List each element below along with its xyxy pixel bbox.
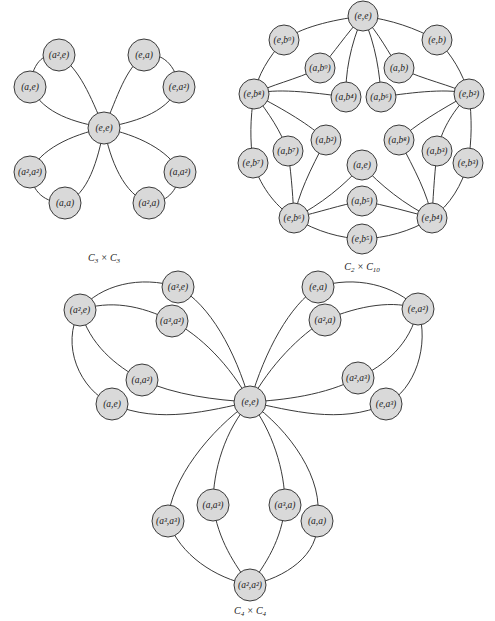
node-c3-a2e: (a²,e) xyxy=(43,39,75,71)
svg-text:(e,b³): (e,b³) xyxy=(458,158,479,169)
svg-text:(e,e): (e,e) xyxy=(354,11,371,22)
caption-c3xc3: C3 × C3 xyxy=(88,252,121,265)
node-c10-ae: (a,e) xyxy=(347,150,377,180)
node-c4-a3a3: (a³,a³) xyxy=(152,505,184,537)
svg-text:(a,a²): (a,a²) xyxy=(131,375,152,386)
svg-text:(a,b⁵): (a,b⁵) xyxy=(351,196,373,207)
svg-text:(e,b²): (e,b²) xyxy=(459,89,480,100)
c4xc4-nodes: (e,e) (a²,e) (a³,e) (a³,a²) (a,a²) (a,e)… xyxy=(64,271,434,601)
node-c10-ab9: (a,b⁹) xyxy=(305,53,335,83)
svg-text:(a,a): (a,a) xyxy=(56,198,74,209)
svg-text:(a,b³): (a,b³) xyxy=(426,146,447,157)
svg-text:(a,b⁹): (a,b⁹) xyxy=(309,63,331,74)
c4xc4-edges xyxy=(72,282,422,585)
node-c10-ab7: (a,b⁷) xyxy=(273,136,303,166)
svg-text:(a,b⁶): (a,b⁶) xyxy=(370,92,392,103)
node-c10-ab2: (a,b²) xyxy=(311,125,341,155)
svg-text:(e,b⁵): (e,b⁵) xyxy=(352,234,373,245)
node-c4-ae: (a,e) xyxy=(96,388,128,420)
svg-text:(a,a³): (a,a³) xyxy=(202,500,223,511)
c3xc3-nodes: (e,e) (a²,e) (a,e) (e,a) (e,a²) (a²,a²) … xyxy=(14,39,196,219)
svg-text:(a,b⁴): (a,b⁴) xyxy=(335,92,357,103)
svg-text:(e,a): (e,a) xyxy=(309,282,327,293)
node-c10-ab3: (a,b³) xyxy=(422,136,452,166)
node-c3-ae: (a,e) xyxy=(14,71,46,103)
svg-text:(a³,e): (a³,e) xyxy=(168,282,189,293)
svg-text:(a,b²): (a,b²) xyxy=(315,135,336,146)
svg-text:(a³,a³): (a³,a³) xyxy=(156,516,180,527)
node-c4-ea3: (e,a³) xyxy=(370,388,402,420)
node-c3-ee: (e,e) xyxy=(88,112,120,144)
node-c10-ab6: (a,b⁶) xyxy=(366,82,396,112)
svg-text:(a,b⁸): (a,b⁸) xyxy=(388,135,410,146)
node-c3-aa2: (a,a²) xyxy=(164,156,196,188)
node-c4-aa3: (a,a³) xyxy=(197,489,229,521)
node-c4-a2e: (a²,e) xyxy=(64,294,96,326)
node-c10-eb4: (e,b⁴) xyxy=(417,203,447,233)
node-c4-aa: (a,a) xyxy=(301,505,333,537)
caption-c4xc4: C4 × C4 xyxy=(234,605,267,618)
svg-text:(a,b): (a,b) xyxy=(390,63,408,74)
node-c10-ee: (e,e) xyxy=(348,1,378,31)
svg-text:(a²,a²): (a²,a²) xyxy=(18,167,42,178)
node-c10-eb7: (e,b⁷) xyxy=(238,148,268,178)
svg-text:(a,e): (a,e) xyxy=(21,82,39,93)
svg-text:(a,a): (a,a) xyxy=(308,516,326,527)
svg-text:(a³,a²): (a³,a²) xyxy=(160,316,184,327)
node-c4-a2a2: (a²,a²) xyxy=(234,569,266,601)
node-c4-a3e: (a³,e) xyxy=(162,271,194,303)
svg-text:(a²,a³): (a²,a³) xyxy=(346,373,370,384)
svg-text:(a,e): (a,e) xyxy=(353,160,371,171)
svg-text:(a,a²): (a,a²) xyxy=(169,167,190,178)
node-c10-eb3: (e,b³) xyxy=(453,148,483,178)
svg-text:(e,b⁸): (e,b⁸) xyxy=(244,89,265,100)
node-c4-ee: (e,e) xyxy=(234,386,266,418)
svg-text:(e,b⁴): (e,b⁴) xyxy=(422,213,443,224)
node-c3-aa: (a,a) xyxy=(49,187,81,219)
node-c10-eb8: (e,b⁸) xyxy=(239,79,269,109)
svg-text:(e,a): (e,a) xyxy=(135,50,153,61)
svg-text:(a²,e): (a²,e) xyxy=(70,305,91,316)
svg-text:(a²,a): (a²,a) xyxy=(314,315,335,326)
svg-text:(e,a²): (e,a²) xyxy=(408,304,429,315)
svg-text:(e,a³): (e,a³) xyxy=(376,399,397,410)
node-c10-eb6: (e,b⁶) xyxy=(279,203,309,233)
node-c10-eb: (e,b) xyxy=(422,25,452,55)
node-c4-a2a3: (a²,a³) xyxy=(342,362,374,394)
node-c3-ea: (e,a) xyxy=(128,39,160,71)
node-c4-a3a2: (a³,a²) xyxy=(156,305,188,337)
svg-text:(e,e): (e,e) xyxy=(241,397,258,408)
node-c4-ea2: (e,a²) xyxy=(402,293,434,325)
svg-text:(e,b⁶): (e,b⁶) xyxy=(284,213,305,224)
svg-text:(a,b⁷): (a,b⁷) xyxy=(277,146,299,157)
node-c4-a2a: (a²,a) xyxy=(309,304,341,336)
node-c3-ea2: (e,a²) xyxy=(163,71,195,103)
node-c3-a2a: (a²,a) xyxy=(133,187,165,219)
node-c4-a3a: (a³,a) xyxy=(269,489,301,521)
svg-text:(e,b⁹): (e,b⁹) xyxy=(274,35,295,46)
node-c10-eb2: (e,b²) xyxy=(454,79,484,109)
cycle-graphs-figure: (e,e) (a²,e) (a,e) (e,a) (e,a²) (a²,a²) … xyxy=(0,0,495,621)
svg-text:(e,a²): (e,a²) xyxy=(169,82,190,93)
svg-text:(a,e): (a,e) xyxy=(103,399,121,410)
svg-text:(e,e): (e,e) xyxy=(95,123,112,134)
svg-text:(a²,a): (a²,a) xyxy=(138,198,159,209)
node-c3-a2a2: (a²,a²) xyxy=(14,156,46,188)
node-c10-ab: (a,b) xyxy=(384,53,414,83)
node-c10-ab5: (a,b⁵) xyxy=(347,186,377,216)
node-c10-ab8: (a,b⁸) xyxy=(384,125,414,155)
node-c10-eb9: (e,b⁹) xyxy=(269,25,299,55)
node-c4-ea: (e,a) xyxy=(302,271,334,303)
svg-text:(e,b⁷): (e,b⁷) xyxy=(243,158,264,169)
node-c4-aa2: (a,a²) xyxy=(126,364,158,396)
caption-c2xc10: C2 × C10 xyxy=(344,261,380,274)
svg-text:(a³,a): (a³,a) xyxy=(274,500,295,511)
node-c10-eb5: (e,b⁵) xyxy=(347,224,377,254)
svg-text:(a²,e): (a²,e) xyxy=(49,50,70,61)
node-c10-ab4: (a,b⁴) xyxy=(331,82,361,112)
svg-text:(e,b): (e,b) xyxy=(428,35,446,46)
c2xc10-nodes: (e,e) (e,b⁹) (e,b) (a,b⁹) (a,b) (e,b⁸) (… xyxy=(238,1,484,254)
svg-text:(a²,a²): (a²,a²) xyxy=(238,580,262,591)
